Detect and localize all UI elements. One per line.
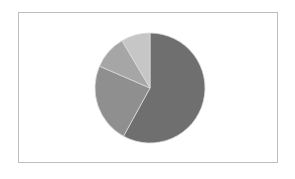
pie-chart: [0, 0, 295, 179]
